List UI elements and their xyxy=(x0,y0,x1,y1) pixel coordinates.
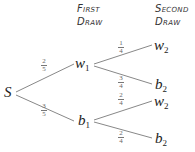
node-w2-bottom-base: w xyxy=(154,93,164,109)
header-first-line2: Draw xyxy=(77,15,102,28)
node-w1: w1 xyxy=(75,56,90,76)
prob-b1-b2-num: 2 xyxy=(119,129,123,137)
prob-b1-w2-den: 4 xyxy=(119,99,123,107)
prob-b1-w2: 24 xyxy=(117,92,125,107)
prob-b1-b2-den: 4 xyxy=(119,137,123,145)
node-w1-base: w xyxy=(75,55,85,71)
prob-s-b1-den: 5 xyxy=(42,110,46,118)
prob-s-w1-den: 5 xyxy=(42,65,46,73)
prob-s-w1-num: 2 xyxy=(42,57,46,65)
node-b1-sub: 1 xyxy=(86,120,91,130)
prob-b1-w2-num: 2 xyxy=(119,91,123,99)
node-root-label: S xyxy=(4,84,12,100)
header-second-line2: Draw xyxy=(155,15,189,28)
node-b1-base: b xyxy=(78,112,86,128)
prob-b1-b2: 24 xyxy=(117,130,125,145)
node-w1-sub: 1 xyxy=(85,63,90,73)
header-first-line1: First xyxy=(77,2,102,15)
node-b2-top-base: b xyxy=(155,76,163,92)
prob-w1-b2-num: 3 xyxy=(119,74,123,82)
header-second-draw: Second Draw xyxy=(155,2,189,28)
prob-s-b1: 35 xyxy=(40,103,48,118)
prob-w1-w2-den: 4 xyxy=(119,47,123,55)
header-first-draw: First Draw xyxy=(77,2,102,28)
node-w2-top: w2 xyxy=(154,38,169,58)
prob-s-b1-num: 3 xyxy=(42,102,46,110)
header-second-line1: Second xyxy=(155,2,189,15)
node-b1: b1 xyxy=(78,113,90,133)
prob-w1-w2: 14 xyxy=(117,40,125,55)
node-b2-bottom: b2 xyxy=(155,131,167,151)
node-w2-top-sub: 2 xyxy=(164,45,169,55)
prob-w1-w2-num: 1 xyxy=(119,39,123,47)
node-b2-bottom-sub: 2 xyxy=(163,138,168,148)
node-w2-bottom: w2 xyxy=(154,94,169,114)
node-b2-bottom-base: b xyxy=(155,130,163,146)
node-w2-top-base: w xyxy=(154,37,164,53)
node-w2-bottom-sub: 2 xyxy=(164,101,169,111)
prob-w1-b2-den: 4 xyxy=(119,82,123,90)
prob-s-w1: 25 xyxy=(40,58,48,73)
node-root-s: S xyxy=(4,85,12,100)
prob-w1-b2: 34 xyxy=(117,75,125,90)
